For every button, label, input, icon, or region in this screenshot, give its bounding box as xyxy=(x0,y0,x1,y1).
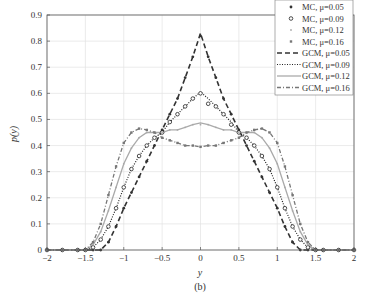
data-marker xyxy=(131,147,133,149)
x-tick-label: 2 xyxy=(352,253,357,263)
data-marker xyxy=(130,167,134,171)
data-marker xyxy=(207,124,209,126)
data-marker xyxy=(290,6,293,9)
y-tick-label: 0.7 xyxy=(31,62,43,72)
data-marker xyxy=(284,165,286,167)
data-marker xyxy=(253,132,255,134)
data-marker xyxy=(161,137,163,139)
data-marker xyxy=(292,210,294,212)
legend-label: GCM, μ=0.16 xyxy=(302,83,350,93)
data-marker xyxy=(130,131,132,133)
data-marker xyxy=(107,194,109,196)
data-marker xyxy=(252,144,256,148)
data-marker xyxy=(184,144,186,146)
data-marker xyxy=(123,163,125,165)
data-marker xyxy=(100,223,102,225)
data-marker xyxy=(200,124,202,126)
data-marker xyxy=(169,129,171,131)
legend-label: MC, μ=0.05 xyxy=(302,2,344,12)
data-marker xyxy=(268,191,271,194)
data-marker xyxy=(161,132,163,134)
data-marker xyxy=(184,126,186,128)
data-marker xyxy=(283,206,287,210)
data-marker xyxy=(230,113,233,116)
data-marker xyxy=(207,55,210,58)
data-marker xyxy=(199,92,203,96)
data-marker xyxy=(289,17,293,21)
x-tick-label: 1.5 xyxy=(310,253,322,263)
data-marker xyxy=(122,186,126,190)
data-marker xyxy=(145,144,149,148)
data-marker xyxy=(238,132,240,134)
data-marker xyxy=(153,131,155,133)
data-marker xyxy=(307,244,309,246)
data-marker xyxy=(291,194,293,196)
data-marker xyxy=(108,210,110,212)
data-marker xyxy=(184,76,187,79)
x-tick-label: 0 xyxy=(198,253,203,263)
data-marker xyxy=(176,112,180,116)
data-marker xyxy=(137,154,141,158)
data-marker xyxy=(230,139,232,141)
chart: −2−1.5−1−0.500.511.52 00.10.20.30.40.50.… xyxy=(0,0,365,299)
data-marker xyxy=(222,142,224,144)
data-marker xyxy=(153,136,157,140)
y-tick-label: 0.3 xyxy=(31,167,43,177)
legend-label: MC, μ=0.12 xyxy=(302,25,344,35)
data-marker xyxy=(222,112,226,116)
legend-label: GCM, μ=0.09 xyxy=(302,60,350,70)
x-tick-label: −2 xyxy=(42,253,52,263)
x-tick-label: −1 xyxy=(119,253,129,263)
data-marker xyxy=(168,113,171,116)
data-marker xyxy=(199,34,202,37)
data-marker xyxy=(238,137,240,139)
y-tick-label: 0.8 xyxy=(31,36,43,46)
data-marker xyxy=(168,120,172,124)
data-marker xyxy=(276,207,279,210)
data-marker xyxy=(261,127,263,129)
data-marker xyxy=(245,136,249,140)
data-marker xyxy=(122,207,125,210)
data-marker xyxy=(146,132,148,134)
data-marker xyxy=(229,123,233,127)
data-marker xyxy=(176,142,178,144)
data-marker xyxy=(214,76,217,79)
y-tick-label: 0 xyxy=(38,245,43,255)
data-marker xyxy=(290,40,292,42)
y-tick-label: 0.4 xyxy=(31,141,43,151)
data-marker xyxy=(153,144,156,147)
data-marker xyxy=(138,127,140,129)
legend-label: GCM, μ=0.05 xyxy=(302,48,350,58)
data-marker xyxy=(214,105,218,109)
y-tick-label: 0.5 xyxy=(31,114,43,124)
data-marker xyxy=(275,186,279,190)
data-marker xyxy=(245,131,247,133)
x-tick-label: −0.5 xyxy=(154,253,171,263)
data-marker xyxy=(91,246,95,250)
data-marker xyxy=(176,97,179,100)
data-marker xyxy=(146,129,148,131)
data-marker xyxy=(261,175,264,178)
data-marker xyxy=(284,225,287,228)
data-marker xyxy=(145,160,148,163)
legend-label: MC, μ=0.09 xyxy=(302,14,344,24)
data-marker xyxy=(199,146,201,148)
data-marker xyxy=(92,244,94,246)
data-marker xyxy=(230,129,232,131)
data-marker xyxy=(298,238,302,242)
data-marker xyxy=(123,142,125,144)
y-tick-label: 0.6 xyxy=(31,88,43,98)
data-marker xyxy=(183,105,187,109)
data-marker xyxy=(130,191,133,194)
data-marker xyxy=(206,102,210,106)
data-marker xyxy=(191,97,195,101)
data-marker xyxy=(107,225,111,229)
data-marker xyxy=(284,186,286,188)
data-marker xyxy=(192,124,194,126)
legend-label: GCM, μ=0.12 xyxy=(302,71,350,81)
data-marker xyxy=(177,129,179,131)
data-marker xyxy=(290,29,292,31)
data-marker xyxy=(215,144,217,146)
data-marker xyxy=(191,55,194,58)
data-marker xyxy=(207,144,209,146)
